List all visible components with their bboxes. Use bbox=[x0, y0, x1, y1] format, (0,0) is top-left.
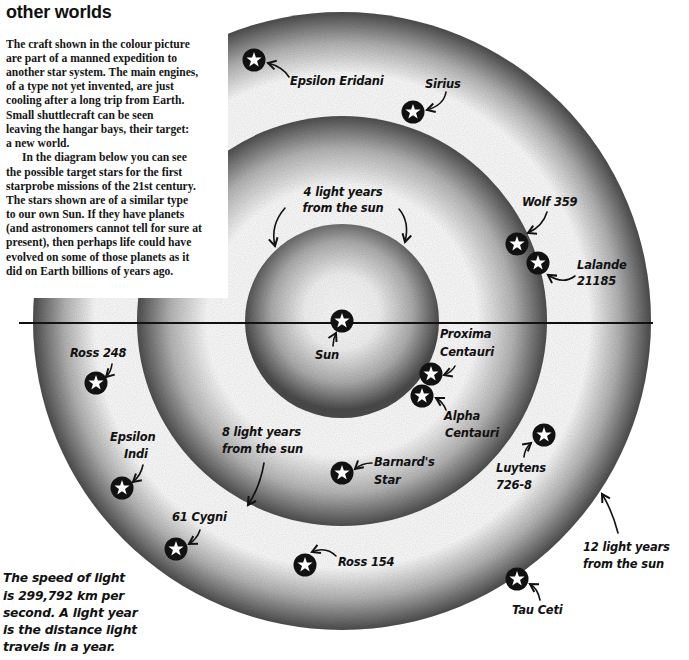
star-icon-alpha-centauri bbox=[411, 385, 434, 408]
star-label-luytens-726-8: Luytens bbox=[496, 461, 546, 475]
star-label-barnards-star: Star bbox=[374, 473, 400, 487]
intro-line: the possible target stars for the first bbox=[6, 166, 182, 180]
intro-line: starprobe missions of the 21st century. bbox=[6, 180, 196, 194]
star-icon-ross-248 bbox=[85, 372, 108, 395]
star-label-alpha-centauri: Centauri bbox=[445, 426, 499, 440]
star-label-lalande-21185: Lalande bbox=[577, 258, 627, 272]
star-icon-wolf-359 bbox=[506, 233, 529, 256]
intro-line: The stars shown are of a similar type bbox=[6, 194, 188, 208]
star-icon-epsilon-indi bbox=[111, 477, 134, 500]
star-icon-61-cygni bbox=[165, 538, 188, 561]
star-label-61-cygni: 61 Cygni bbox=[172, 510, 227, 524]
star-icon-ross-154 bbox=[294, 554, 317, 577]
intro-line: present), then perhaps life could have bbox=[6, 236, 191, 250]
star-label-alpha-centauri: Alpha bbox=[444, 409, 480, 423]
star-label-barnards-star: Barnard's bbox=[374, 455, 435, 469]
star-label-ross-154: Ross 154 bbox=[338, 555, 394, 569]
arrow-icon bbox=[530, 584, 540, 600]
star-icon-barnards-star bbox=[331, 462, 354, 485]
page: other worlds The craft shown in the colo… bbox=[0, 0, 689, 660]
intro-line: another star system. The main engines, bbox=[6, 66, 198, 80]
ring-label-4ly: from the sun bbox=[293, 201, 393, 215]
star-label-epsilon-indi: Indi bbox=[124, 447, 148, 461]
star-icon-epsilon-eridani bbox=[243, 49, 266, 72]
intro-line: In the diagram below you can see bbox=[22, 151, 187, 165]
star-label-sirius: Sirius bbox=[425, 77, 461, 91]
ring-label-8ly: from the sun bbox=[222, 442, 303, 456]
star-label-sun: Sun bbox=[315, 348, 339, 362]
star-label-epsilon-indi: Epsilon bbox=[110, 430, 156, 444]
star-icon-lalande-21185 bbox=[527, 252, 550, 275]
star-icon-tau-ceti bbox=[506, 568, 529, 591]
star-label-wolf-359: Wolf 359 bbox=[522, 195, 577, 209]
ring-label-12ly: from the sun bbox=[583, 557, 664, 571]
ring-label-12ly: 12 light years bbox=[583, 540, 670, 554]
intro-line: (and astronomers cannot tell for sure at bbox=[6, 222, 202, 236]
star-label-proxima-centauri: Centauri bbox=[440, 345, 494, 359]
footnote-line: travels in a year. bbox=[3, 639, 115, 655]
footnote-line: The speed of light bbox=[3, 570, 125, 586]
ring-label-8ly: 8 light years bbox=[222, 425, 301, 439]
star-label-tau-ceti: Tau Ceti bbox=[512, 603, 563, 617]
star-icon-luytens-726-8 bbox=[533, 424, 556, 447]
intro-line: leaving the hangar bays, their target: bbox=[6, 123, 189, 137]
star-label-epsilon-eridani: Epsilon Eridani bbox=[290, 74, 384, 88]
star-icon-sirius bbox=[402, 101, 425, 124]
intro-line: a new world. bbox=[6, 137, 69, 151]
intro-line: The craft shown in the colour picture bbox=[6, 38, 190, 52]
footnote-line: is 299,792 km per bbox=[3, 588, 124, 604]
star-label-lalande-21185: 21185 bbox=[577, 274, 616, 288]
star-label-luytens-726-8: 726-8 bbox=[496, 478, 532, 492]
intro-line: of a type not yet invented, are just bbox=[6, 80, 174, 94]
footnote-line: is the distance light bbox=[3, 622, 137, 638]
ring-label-4ly: 4 light years bbox=[293, 185, 393, 199]
intro-line: are part of a manned expedition to bbox=[6, 52, 177, 66]
star-icon-proxima-centauri bbox=[420, 363, 443, 386]
footnote-line: second. A light year bbox=[3, 605, 138, 621]
intro-line: to our own Sun. If they have planets bbox=[6, 208, 184, 222]
arrow-icon bbox=[602, 494, 618, 533]
star-label-ross-248: Ross 248 bbox=[70, 346, 126, 360]
intro-line: did on Earth billions of years ago. bbox=[6, 265, 173, 279]
article-title: other worlds bbox=[6, 1, 112, 23]
intro-line: cooling after a long trip from Earth. bbox=[6, 94, 184, 108]
star-icon-sun bbox=[331, 310, 354, 333]
intro-line: Small shuttlecraft can be seen bbox=[6, 109, 153, 123]
star-label-proxima-centauri: Proxima bbox=[440, 327, 491, 341]
intro-line: evolved on some of those planets as it bbox=[6, 251, 189, 265]
